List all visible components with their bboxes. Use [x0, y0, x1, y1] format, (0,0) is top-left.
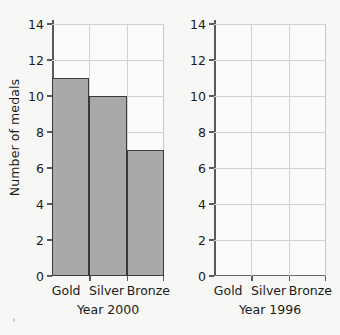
y-axis-tick-label: 6: [198, 161, 206, 176]
bar-bronze: [127, 150, 164, 276]
y-axis-tick-label: 8: [36, 125, 44, 140]
y-axis-title-label: Number of medals: [8, 79, 23, 196]
scan-artifact: [13, 318, 15, 322]
x-axis-line-right: [214, 275, 326, 277]
panel-year-1996: 02468101214 Gold Silver Bronze Year 1996: [180, 0, 340, 335]
y-axis-tick-label: 8: [198, 125, 206, 140]
category-labels-year-1996: Gold Silver Bronze: [208, 283, 332, 298]
y-axis-tick: [209, 203, 214, 205]
category-label-bronze: Bronze: [127, 283, 170, 298]
x-axis-tick: [325, 276, 327, 281]
y-axis-tick-label: 4: [198, 197, 206, 212]
y-axis-tick-label: 6: [36, 161, 44, 176]
plot-canvas-year-1996: 02468101214: [214, 24, 326, 276]
y-axis-title: Number of medals: [4, 0, 26, 275]
gridline-horizontal: [214, 96, 326, 97]
y-axis-tick: [209, 59, 214, 61]
panel-year-2000: Number of medals 02468101214 Gold Silver…: [0, 0, 180, 335]
chart-panels: Number of medals 02468101214 Gold Silver…: [0, 0, 340, 335]
plot-area-year-1996: 02468101214 Gold Silver Bronze Year 1996: [214, 24, 326, 276]
y-axis-tick: [209, 167, 214, 169]
category-label-bronze-1996: Bronze: [289, 283, 332, 298]
y-axis-tick-label: 14: [190, 17, 206, 32]
y-axis-tick-label: 2: [36, 233, 44, 248]
y-axis-tick: [209, 239, 214, 241]
y-axis-tick: [209, 23, 214, 25]
gridline-horizontal: [214, 240, 326, 241]
x-axis-tick: [89, 276, 91, 281]
plot-right-edge: [325, 24, 326, 276]
y-axis-tick: [47, 59, 52, 61]
y-axis-tick-label: 0: [198, 269, 206, 284]
y-axis-tick-label: 10: [190, 89, 206, 104]
y-axis-tick-label: 12: [28, 53, 44, 68]
plot-area-year-2000: 02468101214 Gold Silver Bronze Year 2000: [52, 24, 164, 276]
gridline-horizontal: [214, 132, 326, 133]
y-axis-tick-label: 2: [198, 233, 206, 248]
chart-sheet: Number of medals 02468101214 Gold Silver…: [0, 0, 340, 335]
gridline-horizontal: [214, 24, 326, 25]
bar-silver: [89, 96, 126, 276]
y-axis-tick: [209, 95, 214, 97]
x-axis-tick: [251, 276, 253, 281]
y-axis-tick-label: 0: [36, 269, 44, 284]
gridline-horizontal: [52, 60, 164, 61]
panel-caption-year-1996: Year 1996: [214, 302, 326, 317]
bar-gold: [52, 78, 89, 276]
gridline-vertical: [251, 24, 252, 276]
y-axis-line-right: [214, 20, 216, 276]
gridline-horizontal: [214, 168, 326, 169]
x-axis-tick: [163, 276, 165, 281]
gridline-horizontal: [214, 204, 326, 205]
x-axis-tick: [289, 276, 291, 281]
gridline-horizontal: [214, 60, 326, 61]
y-axis-tick-label: 4: [36, 197, 44, 212]
category-label-silver-1996: Silver: [248, 283, 288, 298]
category-label-gold: Gold: [46, 283, 86, 298]
panel-caption-year-2000: Year 2000: [52, 302, 164, 317]
y-axis-tick-label: 12: [190, 53, 206, 68]
plot-canvas-year-2000: 02468101214: [52, 24, 164, 276]
y-axis-tick-label: 10: [28, 89, 44, 104]
category-label-silver: Silver: [86, 283, 126, 298]
y-axis-tick: [47, 23, 52, 25]
gridline-vertical: [289, 24, 290, 276]
y-axis-tick: [209, 275, 214, 277]
category-labels-year-2000: Gold Silver Bronze: [46, 283, 170, 298]
y-axis-tick-label: 14: [28, 17, 44, 32]
x-axis-tick: [127, 276, 129, 281]
gridline-horizontal: [52, 24, 164, 25]
category-label-gold-1996: Gold: [208, 283, 248, 298]
y-axis-tick: [209, 131, 214, 133]
